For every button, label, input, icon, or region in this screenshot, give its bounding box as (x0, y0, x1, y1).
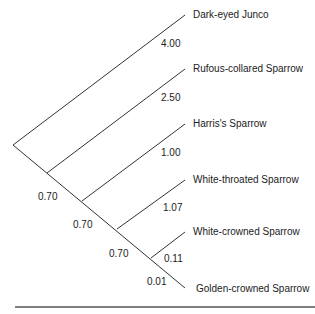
backbone (13, 145, 185, 288)
taxon-label: Rufous-collared Sparrow (193, 63, 303, 75)
internal-branch-label: 0.70 (38, 191, 57, 203)
phylogenetic-tree (0, 0, 315, 314)
branch-length-label: 1.07 (163, 202, 182, 214)
internal-branch-label: 0.70 (73, 219, 92, 231)
branch-dark-eyed-junco (13, 15, 185, 145)
branch-length-label: 1.00 (161, 147, 180, 159)
branch-length-label: 0.01 (147, 276, 166, 288)
taxon-label: White-crowned Sparrow (193, 226, 300, 238)
taxon-label: Golden-crowned Sparrow (196, 283, 309, 295)
branch-length-label: 4.00 (161, 38, 180, 50)
branch-length-label: 2.50 (161, 92, 180, 104)
branch-length-label: 0.11 (164, 253, 183, 265)
taxon-label: White-throated Sparrow (193, 174, 299, 186)
internal-branch-label: 0.70 (109, 248, 128, 260)
taxon-label: Dark-eyed Junco (193, 9, 269, 21)
taxon-label: Harris's Sparrow (193, 118, 267, 130)
